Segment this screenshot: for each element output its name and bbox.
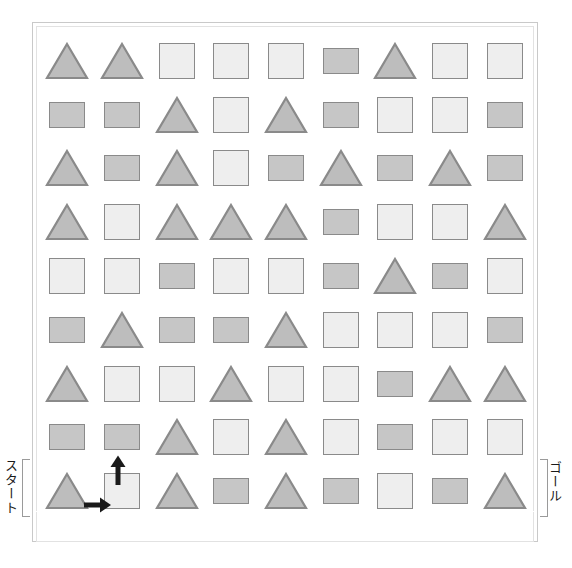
grid-cell-r4c1[interactable]: [40, 195, 95, 249]
grid-cell-r5c1[interactable]: [40, 249, 95, 303]
grid-cell-r8c3[interactable]: [149, 410, 204, 464]
grid-cell-r5c8[interactable]: [423, 249, 478, 303]
grid-cell-r9c6[interactable]: [313, 464, 368, 518]
square-shape: [487, 258, 523, 294]
grid-cell-r6c7[interactable]: [368, 303, 423, 357]
triangle-shape: [264, 311, 308, 349]
grid-cell-r1c3[interactable]: [149, 34, 204, 88]
triangle-shape: [100, 311, 144, 349]
grid-cell-r8c8[interactable]: [423, 410, 478, 464]
grid-cell-r2c7[interactable]: [368, 88, 423, 142]
figure-canvas: スタート ゴール: [0, 0, 572, 568]
square-shape: [323, 312, 359, 348]
grid-cell-r8c7[interactable]: [368, 410, 423, 464]
grid-cell-r7c3[interactable]: [149, 357, 204, 411]
grid-cell-r3c1[interactable]: [40, 142, 95, 196]
grid-cell-r4c2[interactable]: [95, 195, 150, 249]
grid-cell-r8c5[interactable]: [259, 410, 314, 464]
grid-cell-r7c1[interactable]: [40, 357, 95, 411]
grid-cell-r1c1[interactable]: [40, 34, 95, 88]
grid-cell-r9c4[interactable]: [204, 464, 259, 518]
grid-cell-r8c9[interactable]: [477, 410, 532, 464]
grid-cell-r4c4[interactable]: [204, 195, 259, 249]
grid-cell-r6c5[interactable]: [259, 303, 314, 357]
grid-cell-r7c8[interactable]: [423, 357, 478, 411]
grid-cell-r6c4[interactable]: [204, 303, 259, 357]
grid-cell-r1c4[interactable]: [204, 34, 259, 88]
grid-cell-r7c5[interactable]: [259, 357, 314, 411]
grid-cell-r3c3[interactable]: [149, 142, 204, 196]
grid-cell-r5c4[interactable]: [204, 249, 259, 303]
square-shape: [377, 204, 413, 240]
grid-cell-r9c9[interactable]: [477, 464, 532, 518]
grid-cell-r7c9[interactable]: [477, 357, 532, 411]
grid-cell-r2c1[interactable]: [40, 88, 95, 142]
grid-cell-r4c5[interactable]: [259, 195, 314, 249]
grid-cell-r3c9[interactable]: [477, 142, 532, 196]
grid-cell-r7c6[interactable]: [313, 357, 368, 411]
grid-cell-r2c2[interactable]: [95, 88, 150, 142]
grid-cell-r5c2[interactable]: [95, 249, 150, 303]
triangle-shape: [155, 149, 199, 187]
grid-cell-r3c7[interactable]: [368, 142, 423, 196]
grid-cell-r5c6[interactable]: [313, 249, 368, 303]
grid-cell-r6c3[interactable]: [149, 303, 204, 357]
grid-cell-r3c5[interactable]: [259, 142, 314, 196]
grid-cell-r5c5[interactable]: [259, 249, 314, 303]
grid-cell-r2c3[interactable]: [149, 88, 204, 142]
rect-shape: [159, 263, 195, 289]
grid-cell-r5c9[interactable]: [477, 249, 532, 303]
rect-shape: [487, 317, 523, 343]
rect-shape: [104, 424, 140, 450]
square-shape: [268, 366, 304, 402]
triangle-shape: [264, 472, 308, 510]
grid-cell-r8c6[interactable]: [313, 410, 368, 464]
grid-cell-r4c8[interactable]: [423, 195, 478, 249]
rect-shape: [377, 155, 413, 181]
grid-cell-r9c5[interactable]: [259, 464, 314, 518]
grid-cell-r2c9[interactable]: [477, 88, 532, 142]
grid-cell-r8c4[interactable]: [204, 410, 259, 464]
rect-shape: [323, 209, 359, 235]
grid-cell-r7c2[interactable]: [95, 357, 150, 411]
grid-cell-r4c7[interactable]: [368, 195, 423, 249]
grid-cell-r2c6[interactable]: [313, 88, 368, 142]
shape-grid: [40, 34, 532, 518]
triangle-shape: [264, 96, 308, 134]
grid-cell-r4c3[interactable]: [149, 195, 204, 249]
grid-cell-r5c3[interactable]: [149, 249, 204, 303]
grid-cell-r1c6[interactable]: [313, 34, 368, 88]
grid-cell-r1c7[interactable]: [368, 34, 423, 88]
triangle-shape: [319, 149, 363, 187]
grid-cell-r6c8[interactable]: [423, 303, 478, 357]
rect-shape: [487, 155, 523, 181]
grid-cell-r6c9[interactable]: [477, 303, 532, 357]
grid-cell-r2c5[interactable]: [259, 88, 314, 142]
grid-cell-r4c6[interactable]: [313, 195, 368, 249]
grid-cell-r6c6[interactable]: [313, 303, 368, 357]
triangle-shape: [209, 203, 253, 241]
grid-cell-r1c8[interactable]: [423, 34, 478, 88]
grid-cell-r3c8[interactable]: [423, 142, 478, 196]
grid-cell-r2c8[interactable]: [423, 88, 478, 142]
grid-cell-r3c6[interactable]: [313, 142, 368, 196]
square-shape: [377, 312, 413, 348]
grid-cell-r4c9[interactable]: [477, 195, 532, 249]
grid-cell-r3c4[interactable]: [204, 142, 259, 196]
grid-cell-r9c3[interactable]: [149, 464, 204, 518]
square-shape: [213, 150, 249, 186]
grid-cell-r7c7[interactable]: [368, 357, 423, 411]
grid-cell-r9c8[interactable]: [423, 464, 478, 518]
grid-cell-r5c7[interactable]: [368, 249, 423, 303]
grid-cell-r6c2[interactable]: [95, 303, 150, 357]
grid-cell-r6c1[interactable]: [40, 303, 95, 357]
grid-cell-r1c2[interactable]: [95, 34, 150, 88]
grid-cell-r7c4[interactable]: [204, 357, 259, 411]
grid-cell-r1c9[interactable]: [477, 34, 532, 88]
grid-cell-r1c5[interactable]: [259, 34, 314, 88]
grid-cell-r9c7[interactable]: [368, 464, 423, 518]
grid-cell-r3c2[interactable]: [95, 142, 150, 196]
square-shape: [377, 473, 413, 509]
grid-cell-r8c1[interactable]: [40, 410, 95, 464]
grid-cell-r2c4[interactable]: [204, 88, 259, 142]
